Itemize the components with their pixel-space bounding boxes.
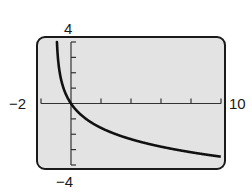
x-min-label: −2 — [9, 96, 26, 111]
y-max-label: 4 — [64, 21, 72, 36]
y-min-label: −4 — [56, 174, 73, 189]
x-max-label: 10 — [229, 96, 246, 111]
graphing-calculator-screen — [0, 0, 252, 196]
